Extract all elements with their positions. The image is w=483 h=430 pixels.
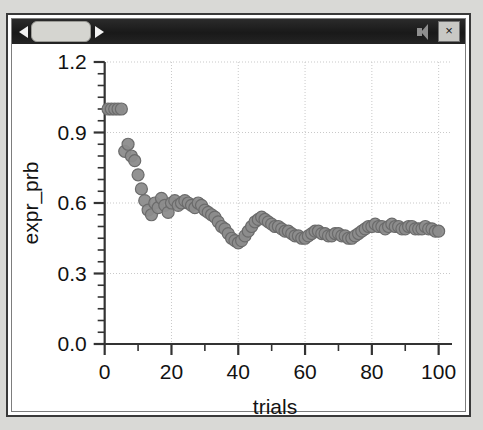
titlebar-thumb-button[interactable] — [31, 21, 91, 42]
screenshot-root: × 0.00.30.60.91.2020406080100 trials exp… — [0, 0, 483, 430]
x-tick-label: 40 — [227, 360, 250, 383]
y-axis-title: expr_prb — [19, 162, 43, 245]
right-triangle-glyph — [95, 26, 104, 38]
x-axis-title: trials — [253, 395, 297, 414]
y-tick-label: 0.0 — [57, 332, 86, 355]
y-tick-label: 0.9 — [57, 121, 86, 144]
x-tick-label: 80 — [360, 360, 383, 383]
speaker-cone-shape — [421, 24, 428, 40]
x-tick-label: 60 — [293, 360, 316, 383]
forward-arrow-icon[interactable] — [91, 22, 107, 41]
left-triangle-glyph — [19, 26, 28, 38]
y-tick-label: 0.3 — [57, 262, 86, 285]
window-titlebar: × — [12, 19, 465, 44]
x-tick-label: 20 — [160, 360, 183, 383]
back-arrow-icon[interactable] — [15, 22, 31, 41]
y-tick-label: 0.6 — [57, 191, 86, 214]
close-icon[interactable]: × — [438, 21, 460, 42]
y-tick-label: 1.2 — [57, 50, 86, 73]
data-points — [102, 103, 445, 249]
speaker-icon[interactable] — [416, 23, 434, 41]
plot-window-inner: × 0.00.30.60.91.2020406080100 trials exp… — [11, 18, 466, 412]
x-tick-label: 0 — [99, 360, 111, 383]
plot-window: × 0.00.30.60.91.2020406080100 trials exp… — [6, 13, 471, 417]
x-tick-label: 100 — [421, 360, 456, 383]
chart-canvas: 0.00.30.60.91.2020406080100 trials expr_… — [12, 44, 465, 411]
scatter-chart: 0.00.30.60.91.2020406080100 trials expr_… — [12, 44, 467, 414]
